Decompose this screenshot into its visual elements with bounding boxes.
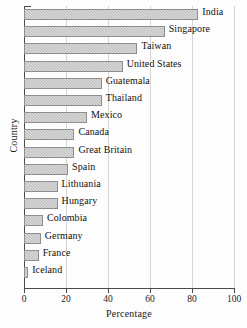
bar-label-canada: Canada (78, 126, 109, 137)
bar-canada (24, 129, 74, 140)
x-tick-label-80: 80 (177, 294, 207, 304)
bar-row: Germany (24, 231, 234, 248)
bar-mexico (24, 112, 87, 123)
bar-chart-figure: Country IndiaSingaporeTaiwanUnited State… (0, 0, 247, 328)
bar-united-states (24, 61, 123, 72)
bar-spain (24, 164, 68, 175)
bar-label-spain: Spain (72, 161, 95, 172)
x-tick-20 (66, 289, 67, 293)
bar-row: Thailand (24, 93, 234, 110)
bar-germany (24, 233, 41, 244)
bar-india (24, 9, 198, 20)
bar-label-india: India (202, 6, 223, 17)
bar-label-guatemala: Guatemala (106, 75, 150, 86)
x-axis-title: Percentage (24, 308, 234, 319)
bar-label-lithuania: Lithuania (62, 178, 101, 189)
bar-france (24, 250, 39, 261)
plot-area: IndiaSingaporeTaiwanUnited StatesGuatema… (24, 6, 234, 288)
bar-label-germany: Germany (45, 230, 83, 241)
bar-row: Canada (24, 127, 234, 144)
bar-label-iceland: Iceland (32, 264, 62, 275)
x-tick-0 (24, 289, 25, 293)
bar-row: Colombia (24, 213, 234, 230)
bar-row: Hungary (24, 196, 234, 213)
bar-colombia (24, 215, 43, 226)
bar-row: Mexico (24, 110, 234, 127)
bar-label-hungary: Hungary (62, 195, 98, 206)
bar-thailand (24, 95, 102, 106)
x-tick-80 (192, 289, 193, 293)
x-axis-spine (24, 288, 235, 289)
bar-label-france: France (43, 247, 71, 258)
x-tick-label-20: 20 (51, 294, 81, 304)
bar-label-singapore: Singapore (169, 23, 210, 34)
bar-row: Iceland (24, 265, 234, 282)
bar-iceland (24, 267, 28, 278)
bar-row: Spain (24, 162, 234, 179)
bar-hungary (24, 198, 58, 209)
bar-great-britain (24, 147, 74, 158)
x-tick-label-60: 60 (135, 294, 165, 304)
x-tick-label-40: 40 (93, 294, 123, 304)
bar-label-taiwan: Taiwan (141, 40, 171, 51)
bar-row: Taiwan (24, 41, 234, 58)
gridline-100 (234, 6, 235, 288)
bar-label-thailand: Thailand (106, 92, 142, 103)
bar-row: Singapore (24, 24, 234, 41)
bar-label-mexico: Mexico (91, 109, 122, 120)
x-tick-label-100: 100 (219, 294, 247, 304)
bar-guatemala (24, 78, 102, 89)
x-tick-label-0: 0 (9, 294, 39, 304)
x-tick-100 (234, 289, 235, 293)
x-tick-60 (150, 289, 151, 293)
bar-lithuania (24, 181, 58, 192)
bar-row: France (24, 248, 234, 265)
bar-row: United States (24, 59, 234, 76)
bar-label-colombia: Colombia (47, 212, 87, 223)
bar-row: Guatemala (24, 76, 234, 93)
bar-row: Lithuania (24, 179, 234, 196)
bar-taiwan (24, 43, 137, 54)
x-tick-40 (108, 289, 109, 293)
bar-row: India (24, 7, 234, 24)
y-axis-title: Country (8, 101, 19, 171)
bar-row: Great Britain (24, 145, 234, 162)
bar-label-united-states: United States (127, 58, 182, 69)
bar-label-great-britain: Great Britain (78, 144, 132, 155)
bar-singapore (24, 26, 165, 37)
